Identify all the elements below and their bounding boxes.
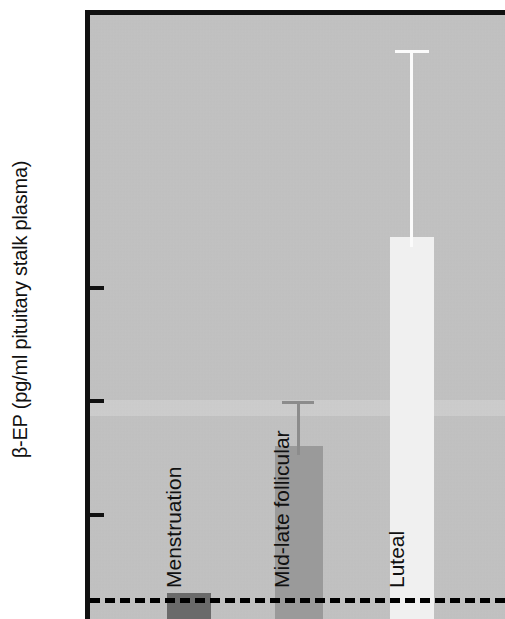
bar-chart-figure: β-EP (pg/ml pituitary stalk plasma) 1500… (0, 0, 505, 619)
detection-limit-dashed-line (90, 598, 505, 603)
errorbar-stem-luteal (410, 50, 413, 247)
plot-area: Menstruation Mid-late follicular Luteal (85, 10, 505, 619)
bar-luteal (390, 237, 434, 619)
y-tick-mark-1500 (90, 286, 104, 290)
errorbar-cap-mid-late-follicular (282, 401, 314, 404)
bar-label-menstruation: Menstruation (162, 467, 186, 588)
bar-menstruation (167, 593, 211, 619)
y-tick-mark-500 (90, 513, 104, 517)
bar-mid-late-follicular (275, 446, 323, 619)
errorbar-cap-luteal (395, 50, 429, 53)
y-axis-title: β-EP (pg/ml pituitary stalk plasma) (0, 0, 40, 619)
y-tick-mark-1000 (90, 399, 104, 403)
errorbar-stem-mid-late-follicular (297, 401, 300, 455)
